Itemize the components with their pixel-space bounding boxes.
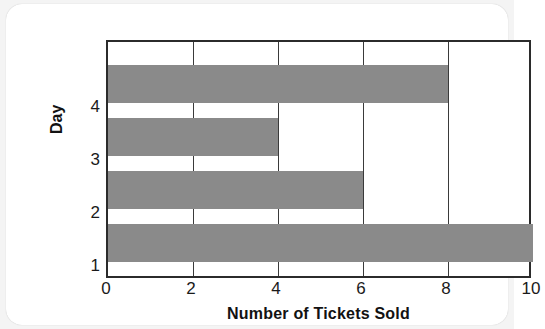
y-axis-tick-labels: 4 3 2 1 <box>60 40 100 278</box>
x-tick-label-0: 0 <box>101 280 110 297</box>
y-tick-label-3: 3 <box>60 151 100 168</box>
bar-day-1[interactable] <box>108 224 533 262</box>
bar-chart: Day 4 3 2 1 0 2 4 6 8 10 <box>40 16 545 329</box>
bar-day-3[interactable] <box>108 118 278 156</box>
x-axis-tick-labels: 0 2 4 6 8 10 <box>106 280 531 304</box>
y-tick-label-4: 4 <box>60 98 100 115</box>
y-tick-label-1: 1 <box>60 257 100 274</box>
x-tick-label-10: 10 <box>522 280 541 297</box>
x-tick-label-6: 6 <box>356 280 365 297</box>
x-tick-label-2: 2 <box>186 280 195 297</box>
y-tick-label-2: 2 <box>60 204 100 221</box>
bar-day-4[interactable] <box>108 65 448 103</box>
bar-day-2[interactable] <box>108 171 363 209</box>
plot-area <box>106 40 531 278</box>
x-axis-title: Number of Tickets Sold <box>106 305 531 323</box>
x-tick-label-4: 4 <box>271 280 280 297</box>
x-tick-label-8: 8 <box>441 280 450 297</box>
